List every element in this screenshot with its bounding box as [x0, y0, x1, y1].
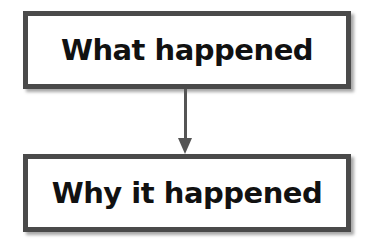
node-what-happened: What happened: [23, 11, 351, 89]
node-label: What happened: [61, 33, 313, 67]
node-why-it-happened: Why it happened: [23, 154, 351, 232]
node-label: Why it happened: [52, 176, 323, 210]
connector-line: [184, 89, 187, 145]
arrow-down-icon: [178, 138, 192, 154]
